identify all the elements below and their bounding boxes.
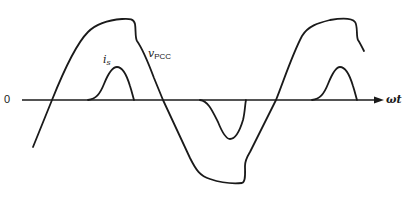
- waveform-plot: [0, 0, 409, 198]
- axis-arrow-icon: [374, 97, 384, 104]
- origin-label: 0: [4, 94, 10, 105]
- is-label-sub: s: [107, 58, 111, 67]
- is-pulse-positive-1: [88, 67, 134, 100]
- is-label: is: [103, 54, 111, 67]
- is-pulse-negative: [200, 100, 246, 139]
- vpcc-label: vPCC: [148, 48, 171, 61]
- time-axis-label: ωt: [386, 94, 402, 105]
- is-pulse-positive-2: [312, 67, 357, 100]
- waveform-diagram: 0 is vPCC ωt: [0, 0, 409, 198]
- vpcc-label-sub: PCC: [154, 52, 171, 61]
- vpcc-curve: [33, 19, 364, 184]
